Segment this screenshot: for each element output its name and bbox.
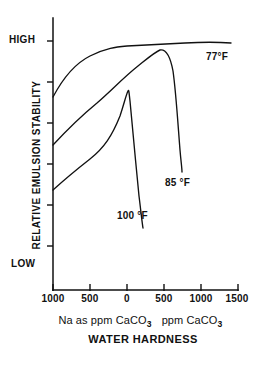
y-axis-title: RELATIVE EMULSION STABILITY bbox=[32, 65, 42, 265]
x-tick-label-500-left: 500 bbox=[81, 294, 98, 304]
curve-label-100f: 100 °F bbox=[117, 211, 148, 221]
curve-label-77f: 77°F bbox=[206, 52, 228, 62]
x-tick-label-1500-right: 1500 bbox=[225, 294, 248, 304]
x-axis-sublabel-sodium-text: Na as ppm CaCO bbox=[58, 314, 146, 326]
x-axis-title: WATER HARDNESS bbox=[88, 334, 197, 345]
x-tick-label-1000-left: 1000 bbox=[41, 294, 64, 304]
y-axis-high-label: HIGH bbox=[9, 35, 35, 45]
x-axis-sublabel-hardness-subscript: 3 bbox=[217, 319, 222, 329]
x-tick-label-0: 0 bbox=[124, 294, 130, 304]
curve-label-85f: 85 °F bbox=[165, 178, 190, 188]
x-axis-sublabel-hardness: ppm CaCO3 bbox=[162, 315, 223, 329]
curve-100f bbox=[53, 90, 143, 228]
x-tick-label-500-right: 500 bbox=[155, 294, 172, 304]
x-axis-sublabel-sodium: Na as ppm CaCO3 bbox=[58, 315, 151, 329]
curve-77f bbox=[53, 42, 231, 97]
y-axis-ticks bbox=[47, 41, 53, 246]
curve-85f bbox=[53, 50, 182, 172]
x-tick-label-1000-right: 1000 bbox=[189, 294, 212, 304]
x-axis-sublabel-hardness-text: ppm CaCO bbox=[162, 314, 218, 326]
emulsion-stability-chart: HIGH LOW RELATIVE EMULSION STABILITY 100… bbox=[0, 0, 268, 365]
x-axis-sublabel-sodium-subscript: 3 bbox=[147, 319, 152, 329]
